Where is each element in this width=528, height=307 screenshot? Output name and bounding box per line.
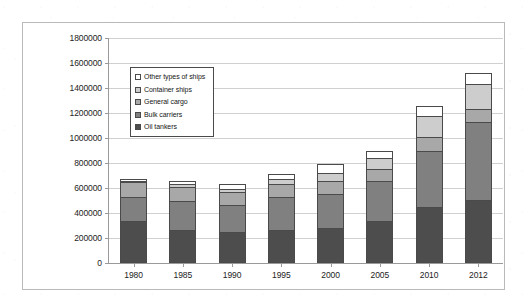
legend-label: Container ships: [144, 86, 192, 94]
chart-frame: 1800000160000014000001200000100000080000…: [22, 22, 505, 290]
stacked-bar[interactable]: [169, 181, 196, 264]
bar-segment[interactable]: [317, 173, 344, 181]
x-axis-tick-mark: [281, 263, 282, 267]
bar-segment[interactable]: [169, 230, 196, 263]
y-axis-tick-label: 800000: [74, 158, 102, 168]
bar-segment[interactable]: [169, 187, 196, 201]
bar-segment[interactable]: [317, 228, 344, 263]
bar-segment[interactable]: [416, 207, 443, 263]
stacked-bar[interactable]: [416, 106, 443, 263]
x-axis-tick-mark: [232, 263, 233, 267]
x-axis-tick-mark: [429, 263, 430, 267]
stacked-bar[interactable]: [120, 179, 147, 263]
y-axis-tick-label: 400000: [74, 208, 102, 218]
bar-segment[interactable]: [219, 192, 246, 205]
x-axis-tick-label: 2005: [370, 270, 389, 280]
x-axis-tick-label: 2012: [469, 270, 488, 280]
y-axis-tick-label: 0: [97, 258, 102, 268]
x-axis-tick-mark: [331, 263, 332, 267]
y-axis-tick-mark: [105, 263, 109, 264]
bar-segment[interactable]: [416, 151, 443, 207]
y-axis-tick-label: 1000000: [70, 133, 102, 143]
legend-label: Bulk carriers: [144, 111, 182, 119]
bar-segment[interactable]: [465, 200, 492, 263]
y-axis-tick-label: 1200000: [70, 108, 102, 118]
legend-item[interactable]: Bulk carriers: [135, 110, 208, 120]
x-axis-tick-label: 2000: [321, 270, 340, 280]
y-axis-tick-label: 200000: [74, 233, 102, 243]
bar-segment[interactable]: [465, 122, 492, 200]
x-axis-tick-label: 2010: [420, 270, 439, 280]
x-axis-tick-mark: [134, 263, 135, 267]
legend-label: General cargo: [144, 98, 188, 106]
legend-swatch-icon: [135, 87, 141, 93]
bar-segment[interactable]: [219, 232, 246, 263]
legend-swatch-icon: [135, 99, 141, 105]
y-axis-tick-label: 1800000: [70, 33, 102, 43]
bar-segment[interactable]: [416, 106, 443, 115]
x-axis-tick-label: 1990: [223, 270, 242, 280]
bar-segment[interactable]: [416, 137, 443, 151]
bar-group: 1990: [208, 38, 257, 263]
legend-item[interactable]: General cargo: [135, 97, 208, 107]
bar-segment[interactable]: [219, 205, 246, 233]
chart-legend: Other types of shipsContainer shipsGener…: [130, 67, 214, 137]
legend-swatch-icon: [135, 74, 141, 80]
legend-item[interactable]: Container ships: [135, 85, 208, 95]
bar-segment[interactable]: [120, 197, 147, 221]
x-axis-tick-mark: [380, 263, 381, 267]
x-axis-tick-label: 1985: [173, 270, 192, 280]
bar-segment[interactable]: [120, 182, 147, 196]
bar-segment[interactable]: [366, 169, 393, 181]
stacked-bar[interactable]: [465, 73, 492, 263]
bar-group: 1995: [257, 38, 306, 263]
stacked-bar[interactable]: [219, 184, 246, 263]
legend-swatch-icon: [135, 124, 141, 130]
bar-segment[interactable]: [169, 201, 196, 230]
stacked-bar[interactable]: [317, 164, 344, 263]
x-axis-tick-mark: [183, 263, 184, 267]
legend-label: Other types of ships: [144, 73, 205, 81]
bar-segment[interactable]: [268, 230, 295, 263]
bar-segment[interactable]: [268, 197, 295, 230]
bar-segment[interactable]: [416, 116, 443, 137]
bar-group: 2012: [454, 38, 503, 263]
bar-group: 2005: [355, 38, 404, 263]
stacked-bar[interactable]: [366, 151, 393, 263]
legend-label: Oil tankers: [144, 123, 177, 131]
bar-segment[interactable]: [465, 73, 492, 84]
y-axis-tick-label: 600000: [74, 183, 102, 193]
x-axis-tick-mark: [478, 263, 479, 267]
bar-segment[interactable]: [366, 181, 393, 221]
bar-segment[interactable]: [268, 184, 295, 197]
bar-segment[interactable]: [366, 158, 393, 169]
legend-item[interactable]: Oil tankers: [135, 122, 208, 132]
bar-segment[interactable]: [317, 164, 344, 173]
bar-segment[interactable]: [465, 109, 492, 122]
bar-segment[interactable]: [120, 221, 147, 264]
stacked-bar[interactable]: [268, 174, 295, 263]
legend-swatch-icon: [135, 112, 141, 118]
bar-segment[interactable]: [366, 221, 393, 263]
bar-segment[interactable]: [465, 84, 492, 109]
bar-segment[interactable]: [317, 194, 344, 228]
x-axis-tick-label: 1980: [124, 270, 143, 280]
y-axis-tick-label: 1400000: [70, 83, 102, 93]
x-axis-tick-label: 1995: [272, 270, 291, 280]
bar-segment[interactable]: [366, 151, 393, 158]
bar-group: 2010: [405, 38, 454, 263]
y-axis-tick-label: 1600000: [70, 58, 102, 68]
legend-item[interactable]: Other types of ships: [135, 72, 208, 82]
bar-segment[interactable]: [317, 181, 344, 194]
bar-group: 2000: [306, 38, 355, 263]
